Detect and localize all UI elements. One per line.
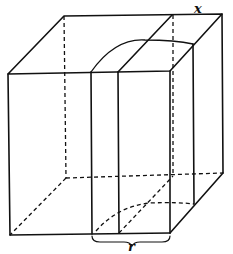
- right-face-inner-line: [193, 44, 194, 204]
- slab-right-edge: [118, 72, 119, 233]
- hidden-bottom-left-diagonal: [10, 178, 66, 235]
- right-bottom-edge: [170, 173, 223, 233]
- front-bottom-edge: [10, 233, 170, 235]
- front-left-edge: [8, 74, 10, 235]
- hidden-back-bottom-edge: [66, 173, 223, 178]
- top-arc: [91, 40, 193, 72]
- label-r: r: [128, 240, 135, 253]
- slab-top-diagonal: [118, 15, 172, 72]
- hidden-slab-bottom-diagonal: [119, 176, 173, 233]
- label-x: x: [194, 2, 202, 15]
- slab-left-edge: [91, 72, 92, 234]
- hidden-back-left-vertical: [64, 16, 66, 178]
- back-right-edge: [222, 14, 223, 173]
- bottom-arc: [96, 203, 194, 231]
- cube-diagram: [0, 0, 233, 254]
